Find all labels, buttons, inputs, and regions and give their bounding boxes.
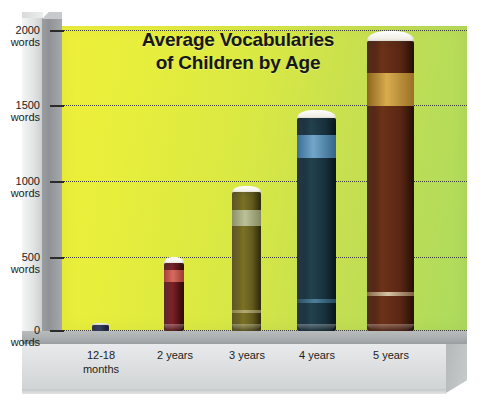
bar-foot bbox=[232, 324, 261, 331]
floor-platform-top bbox=[22, 331, 467, 344]
bar-band bbox=[232, 210, 261, 226]
y-tick-unit-2000: words bbox=[0, 36, 40, 48]
bar-12-18-months[interactable] bbox=[92, 323, 109, 331]
bar-body bbox=[232, 192, 261, 331]
y-axis-pillar bbox=[42, 18, 62, 331]
y-tick-500 bbox=[50, 257, 64, 259]
y-tick-value-0: 0 bbox=[0, 324, 40, 336]
chart-title-line-1: Average Vocabularies bbox=[118, 28, 358, 51]
bar-body bbox=[92, 325, 109, 331]
y-tick-unit-1000: words bbox=[0, 187, 40, 199]
bar-band bbox=[297, 135, 336, 158]
bar-body bbox=[164, 263, 184, 331]
y-tick-value-1500: 1500 bbox=[0, 99, 40, 111]
bar-2-years[interactable] bbox=[164, 257, 184, 331]
x-label-line-2: months bbox=[62, 362, 140, 376]
x-label-line-1: 12-18 bbox=[62, 348, 140, 362]
bar-band-lower bbox=[232, 310, 261, 313]
y-tick-value-1000: 1000 bbox=[0, 175, 40, 187]
chart-figure: 2000 words 1500 words 1000 words 500 wor… bbox=[0, 0, 486, 411]
y-tick-label-0: 0 words bbox=[0, 324, 40, 348]
bar-foot bbox=[164, 324, 184, 331]
bar-5-years[interactable] bbox=[367, 31, 414, 331]
y-tick-unit-1500: words bbox=[0, 111, 40, 123]
y-tick-2000 bbox=[50, 30, 64, 32]
bar-band bbox=[164, 270, 184, 282]
bar-band-lower bbox=[297, 299, 336, 303]
y-axis-panel-top bbox=[22, 12, 43, 18]
floor-platform-side bbox=[446, 344, 467, 393]
bar-foot bbox=[367, 324, 414, 331]
bar-body bbox=[297, 118, 336, 331]
bar-3-years[interactable] bbox=[232, 186, 261, 331]
bar-band-lower bbox=[367, 292, 414, 296]
y-tick-value-2000: 2000 bbox=[0, 24, 40, 36]
y-tick-label-2000: 2000 words bbox=[0, 24, 40, 48]
chart-title-line-2: of Children by Age bbox=[118, 51, 358, 74]
x-label-line-1: 5 years bbox=[352, 348, 430, 362]
y-axis-panel bbox=[22, 12, 43, 331]
chart-title: Average Vocabularies of Children by Age bbox=[118, 28, 358, 74]
y-tick-unit-0: words bbox=[0, 336, 40, 348]
bar-foot bbox=[297, 324, 336, 331]
bar-4-years[interactable] bbox=[297, 110, 336, 331]
y-tick-value-500: 500 bbox=[0, 251, 40, 263]
y-tick-1000 bbox=[50, 181, 64, 183]
y-axis-pillar-top bbox=[42, 12, 62, 19]
x-tick-label-12-18-months: 12-18 months bbox=[62, 348, 140, 376]
y-tick-unit-500: words bbox=[0, 263, 40, 275]
x-tick-label-5-years: 5 years bbox=[352, 348, 430, 362]
y-tick-label-1000: 1000 words bbox=[0, 175, 40, 199]
x-tick-label-3-years: 3 years bbox=[208, 348, 286, 362]
bar-body bbox=[367, 41, 414, 331]
x-label-line-1: 2 years bbox=[136, 348, 214, 362]
x-tick-label-4-years: 4 years bbox=[278, 348, 356, 362]
y-tick-0 bbox=[50, 330, 64, 332]
y-tick-1500 bbox=[50, 105, 64, 107]
y-tick-label-1500: 1500 words bbox=[0, 99, 40, 123]
x-label-line-1: 4 years bbox=[278, 348, 356, 362]
x-label-line-1: 3 years bbox=[208, 348, 286, 362]
floor-platform-edge bbox=[22, 389, 446, 394]
y-tick-label-500: 500 words bbox=[0, 251, 40, 275]
bar-band bbox=[367, 73, 414, 106]
x-tick-label-2-years: 2 years bbox=[136, 348, 214, 362]
